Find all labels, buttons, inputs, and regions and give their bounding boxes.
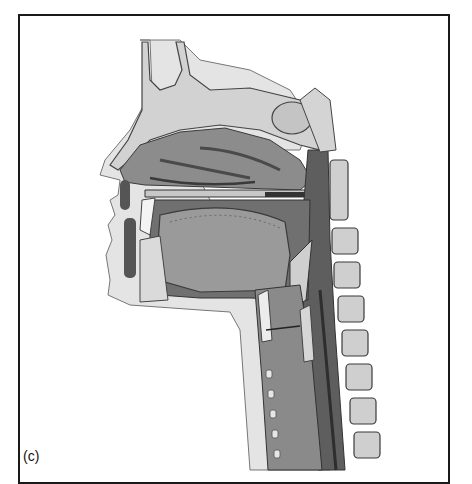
panel-label: (c): [23, 448, 39, 464]
upper-lip: [120, 180, 130, 210]
lower-lip: [124, 218, 136, 278]
tongue: [158, 208, 290, 292]
